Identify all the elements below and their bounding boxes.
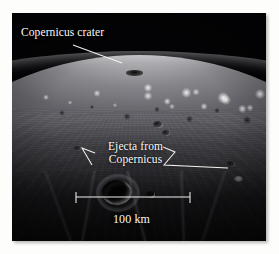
- ejecta-label-line1: Ejecta from: [108, 140, 163, 153]
- ejecta-label: Ejecta from Copernicus: [108, 140, 163, 166]
- ejecta-right-leader-line-icon: [163, 147, 228, 168]
- copernicus-crater-label: Copernicus crater: [21, 26, 104, 39]
- photograph: Copernicus crater Ejecta from Copernicus…: [12, 13, 266, 241]
- scale-bar-icon: [76, 192, 190, 203]
- lunar-surface-figure: Copernicus crater Ejecta from Copernicus…: [0, 0, 279, 254]
- copernicus-leader-line-icon: [73, 45, 122, 63]
- ejecta-label-line2: Copernicus: [108, 153, 163, 166]
- ejecta-left-leader-line-icon: [82, 148, 95, 165]
- annotation-overlay: [12, 13, 266, 241]
- scale-bar-label: 100 km: [113, 213, 150, 226]
